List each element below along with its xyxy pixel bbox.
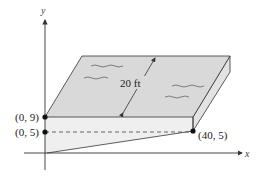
pool-front-face [45,117,193,153]
point-0-5 [42,129,47,134]
point-0-9 [42,114,47,119]
point-40-5 [190,128,195,133]
point-label-0-9: (0, 9) [15,111,39,124]
dimension-label: 20 ft [120,77,140,89]
point-label-40-5: (40, 5) [198,129,228,142]
pool-diagram: 20 ft y x (0, 9) (0, 5) (40, 5) [0,0,269,177]
x-axis-label: x [244,148,250,159]
y-axis-label: y [40,5,46,16]
point-label-0-5: (0, 5) [15,126,39,139]
